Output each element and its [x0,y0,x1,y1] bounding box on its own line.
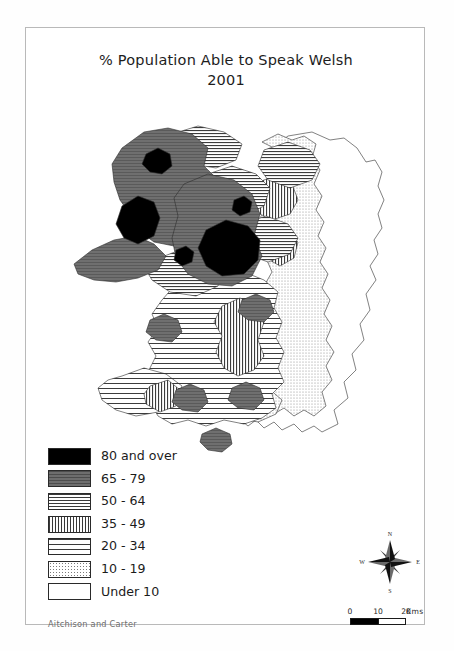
legend-swatch-sparse-horizontal [48,538,91,555]
scale-segment-0-10 [351,619,378,624]
legend-label-80-and-over: 80 and over [101,450,177,463]
compass-label-west: W [359,559,365,565]
map-attribution: Aitchison and Carter [48,619,137,629]
map-title: % Population Able to Speak Welsh 2001 [26,50,426,90]
legend-label-20-34: 20 - 34 [101,540,146,553]
legend-item-10-19: 10 - 19 [48,558,208,581]
map-frame: % Population Able to Speak Welsh 2001 [25,27,425,625]
legend-swatch-dark-gray [48,470,91,487]
legend-swatch-dense-horizontal [48,493,91,510]
legend-item-50-64: 50 - 64 [48,490,208,513]
compass-label-south: S [388,588,391,594]
legend-label-10-19: 10 - 19 [101,563,146,576]
map-page: % Population Able to Speak Welsh 2001 [0,0,454,651]
title-line-2: 2001 [26,70,426,90]
scale-tick-10: 10 [373,606,383,617]
north-arrow-icon: N E S W [358,528,422,596]
scale-bar-graphic [350,618,406,625]
legend-label-65-79: 65 - 79 [101,473,146,486]
map-canvas [26,88,426,478]
scale-bar: 0 10 20 Kms [344,606,436,625]
legend-label-50-64: 50 - 64 [101,495,146,508]
map-legend: 80 and over 65 - 79 50 - 64 35 - 49 20 -… [48,445,208,603]
legend-swatch-white [48,583,91,600]
compass-rose: N E S W [358,528,422,596]
legend-swatch-solid-black [48,448,91,465]
compass-label-east: E [416,559,420,565]
compass-label-north: N [388,531,393,537]
scale-tick-labels: 0 10 20 Kms [344,606,436,617]
scale-tick-0: 0 [348,606,353,617]
legend-swatch-stipple [48,561,91,578]
legend-item-35-49: 35 - 49 [48,513,208,536]
legend-swatch-vertical-lines [48,516,91,533]
legend-label-under-10: Under 10 [101,586,159,599]
legend-item-under-10: Under 10 [48,581,208,604]
scale-segment-10-20 [378,619,406,624]
legend-label-35-49: 35 - 49 [101,518,146,531]
legend-item-20-34: 20 - 34 [48,535,208,558]
wales-choropleth-svg [26,88,426,478]
legend-item-80-and-over: 80 and over [48,445,208,468]
legend-item-65-79: 65 - 79 [48,468,208,491]
title-line-1: % Population Able to Speak Welsh [26,50,426,70]
scale-units-label: Kms [406,606,424,617]
